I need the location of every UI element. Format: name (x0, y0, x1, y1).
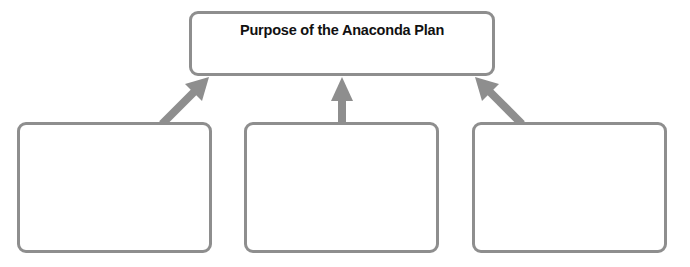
arrow-right-to-title-icon (475, 77, 522, 124)
title-box-label: Purpose of the Anaconda Plan (192, 22, 492, 38)
arrow-middle-to-title-icon (331, 77, 353, 124)
arrow-left-to-title-icon (162, 77, 209, 124)
graphic-organizer: Purpose of the Anaconda Plan (0, 0, 690, 267)
title-box: Purpose of the Anaconda Plan (189, 11, 495, 76)
answer-box-middle[interactable] (244, 122, 439, 253)
answer-box-left[interactable] (17, 122, 212, 253)
answer-box-right[interactable] (472, 122, 667, 253)
